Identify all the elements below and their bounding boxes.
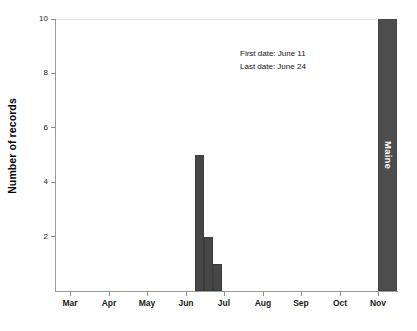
x-tick-label-may: May [139,299,156,308]
region-bar-maine: Maine [378,19,397,291]
x-tick-label-mar: Mar [62,299,77,308]
y-tick-mark [51,236,56,237]
y-axis-title: Number of records [2,0,22,291]
x-tick-label-aug: Aug [255,299,272,308]
x-tick-mark [109,292,110,296]
region-bar-label: Maine [382,141,393,169]
annotation-last-date: Last date: June 24 [240,61,306,74]
x-tick-mark [224,292,225,296]
x-tick-label-jun: Jun [178,299,193,308]
y-axis-line [55,19,56,292]
chart-figure: Number of records 2 4 6 8 10 Mar Apr May… [0,0,417,331]
x-tick-label-sep: Sep [293,299,309,308]
y-tick-mark [51,19,56,20]
x-tick-mark [301,292,302,296]
x-tick-label-jul: Jul [218,299,230,308]
plot-top-rule [56,19,397,20]
y-tick-label: 6 [44,124,48,132]
y-tick-label: 10 [39,15,48,23]
y-tick-mark [51,73,56,74]
x-tick-label-oct: Oct [333,299,347,308]
y-axis-title-text: Number of records [6,98,18,194]
x-tick-mark [70,292,71,296]
x-tick-label-apr: Apr [102,299,117,308]
x-tick-label-nov: Nov [370,299,386,308]
x-tick-mark [186,292,187,296]
annotation-first-date: First date: June 11 [240,48,306,61]
x-axis-line [55,291,398,292]
x-tick-mark [378,292,379,296]
x-tick-mark [147,292,148,296]
x-tick-mark [263,292,264,296]
bar [213,264,222,291]
date-range-annotation: First date: June 11 Last date: June 24 [240,48,306,73]
y-tick-mark [51,127,56,128]
y-tick-label: 2 [44,233,48,241]
y-tick-label: 8 [44,69,48,77]
plot-area [55,19,397,291]
y-tick-mark [51,182,56,183]
y-tick-label: 4 [44,178,48,186]
bar [204,237,213,291]
bar [195,155,204,291]
x-tick-mark [340,292,341,296]
